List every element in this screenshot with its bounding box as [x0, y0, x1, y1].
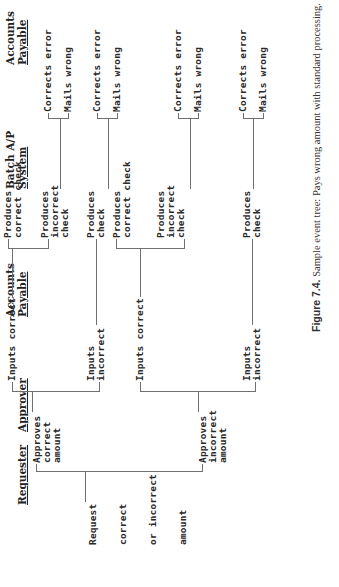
header-requester: Requester: [16, 445, 28, 505]
outcome-4-corrects-error: Corrects error: [238, 29, 248, 112]
ap-a-bracket-bottom: [99, 382, 100, 392]
inputs-a-incorrect-connector: [96, 239, 97, 325]
outcome-3-bracket-top: [178, 113, 179, 119]
outcome-3-bracket-bottom: [198, 113, 199, 119]
produces-check-b: Produces check: [242, 191, 262, 238]
outcome-4-bracket: [243, 118, 263, 119]
produces-correct-check-b: Produces correct check: [112, 161, 132, 238]
ap-a-bracket: [12, 391, 99, 392]
header-approver-text: Approver: [16, 378, 28, 432]
root-bracket: [36, 471, 202, 472]
outcome-1-bracket-bottom: [68, 113, 69, 119]
batch-a-bracket: [8, 248, 48, 249]
batch-a2-connector: [60, 119, 61, 189]
outcome-4-bracket-bottom: [263, 113, 264, 119]
produces-incorrect-check-b: Produces incorrect check: [156, 185, 186, 238]
approver-b-connector: [198, 392, 199, 412]
root-line4: amount: [178, 474, 188, 545]
event-tree-figure: Requester Approver Accounts Payable Batc…: [0, 0, 339, 587]
ap-b-bracket: [140, 391, 255, 392]
produces-check-a: Produces check: [86, 191, 106, 238]
batch-b3-connector: [253, 119, 254, 189]
outcome-4-mails-wrong: Mails wrong: [258, 47, 268, 112]
caption-label: Figure 7.4.: [310, 279, 322, 332]
outcome-2-corrects-error: Corrects error: [92, 29, 102, 112]
header-ap2-line1: Accounts: [4, 11, 16, 65]
approves-correct-amount: Approves correct amount: [32, 416, 62, 463]
batch-b-bracket-bottom: [184, 239, 185, 249]
approver-a-connector: [32, 392, 33, 412]
outcome-2-bracket-bottom: [117, 113, 118, 119]
root-node: Request correct or incorrect amount: [68, 474, 208, 545]
outcome-3-mails-wrong: Mails wrong: [193, 47, 203, 112]
outcome-3-bracket: [178, 118, 198, 119]
inputs-incorrect-b: Inputs incorrect: [242, 328, 262, 381]
header-approver: Approver: [16, 378, 28, 432]
inputs-b-connector: [140, 249, 141, 297]
batch-b2-connector: [190, 119, 191, 189]
outcome-2-bracket-top: [97, 113, 98, 119]
batch-b-bracket: [116, 248, 184, 249]
inputs-b-incorrect-connector: [252, 239, 253, 325]
figure-caption: Figure 7.4. Sample event tree: Pays wron…: [310, 3, 322, 332]
root-line1: Request: [88, 474, 98, 545]
ap-b-bracket-bottom: [255, 382, 256, 392]
batch-b-bracket-top: [116, 239, 117, 249]
header-ap1-line2: Payable: [16, 263, 28, 317]
outcome-1-mails-wrong: Mails wrong: [63, 47, 73, 112]
ap-a-bracket-top: [12, 382, 13, 392]
root-connector: [85, 472, 86, 502]
produces-incorrect-check-a: Produces incorrect check: [40, 185, 70, 238]
ap-b-bracket-top: [140, 382, 141, 392]
root-line2: correct: [118, 474, 128, 545]
root-bracket-top: [36, 464, 37, 472]
header-ap2-line2: Payable: [16, 11, 28, 65]
inputs-incorrect-a: Inputs incorrect: [86, 328, 106, 381]
outcome-2-bracket: [97, 118, 117, 119]
inputs-correct-a: Inputs correct: [7, 298, 17, 381]
header-requester-text: Requester: [16, 445, 28, 505]
inputs-a-connector: [12, 249, 13, 297]
inputs-correct-b: Inputs correct: [135, 298, 145, 381]
caption-text: Sample event tree: Pays wrong amount wit…: [311, 3, 322, 279]
outcome-2-mails-wrong: Mails wrong: [112, 47, 122, 112]
batch-a3-connector: [108, 119, 109, 189]
root-bracket-bottom: [202, 464, 203, 472]
outcome-1-bracket-top: [48, 113, 49, 119]
approves-incorrect-amount: Approves incorrect amount: [198, 410, 228, 463]
outcome-1-bracket: [48, 118, 68, 119]
outcome-3-corrects-error: Corrects error: [173, 29, 183, 112]
outcome-1-corrects-error: Corrects error: [43, 29, 53, 112]
produces-correct-check-a: Produces correct check: [3, 161, 23, 238]
outcome-4-bracket-top: [243, 113, 244, 119]
batch-a-bracket-bottom: [48, 239, 49, 249]
batch-a-bracket-top: [8, 239, 9, 249]
root-line3: or incorrect: [148, 474, 158, 545]
header-accounts-payable-2: Accounts Payable: [4, 11, 28, 65]
